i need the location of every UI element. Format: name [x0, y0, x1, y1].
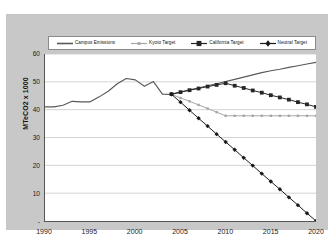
series-california-target: [170, 81, 316, 108]
data-point-marker: [233, 84, 237, 88]
data-point-marker: [206, 107, 208, 109]
data-point-marker: [288, 115, 290, 117]
y-axis-tick-label: 10: [18, 191, 40, 198]
legend-item-neutral-target[interactable]: Neutral Target: [260, 39, 307, 48]
y-axis-tick-label: 30: [18, 135, 40, 142]
legend-item-california-target[interactable]: California Target: [191, 39, 243, 48]
legend-item-campus-emissions[interactable]: Campus Emissions: [57, 39, 115, 48]
data-point-marker: [234, 115, 236, 117]
data-point-marker: [287, 98, 291, 102]
legend-swatch-neutral-target-icon: [260, 39, 276, 48]
data-point-marker: [197, 87, 201, 91]
legend-swatch-california-target-icon: [191, 39, 207, 48]
data-point-marker: [296, 100, 300, 104]
y-axis-title: MTeCO2 x 1000: [22, 44, 29, 164]
data-point-marker: [179, 97, 181, 99]
data-point-marker: [305, 102, 309, 106]
data-point-marker: [269, 93, 273, 97]
y-axis-tick-label: 20: [18, 163, 40, 170]
data-point-marker: [179, 90, 183, 94]
legend-item-kyoto-target[interactable]: Kyoto Target: [131, 39, 175, 48]
y-axis-tick-label: 40: [18, 107, 40, 114]
gridlines: [45, 54, 316, 193]
data-point-marker: [297, 115, 299, 117]
legend-label-california-target: California Target: [209, 41, 243, 46]
x-axis-tick-label: 2020: [296, 228, 334, 235]
x-axis-tick-label: 2010: [205, 228, 245, 235]
data-point-marker: [188, 100, 190, 102]
data-point-marker: [215, 111, 217, 113]
data-series-layer: [45, 62, 316, 221]
legend-swatch-campus-emissions-icon: [57, 39, 73, 48]
plot-svg: [45, 54, 316, 221]
data-point-marker: [206, 85, 210, 89]
data-point-marker: [270, 115, 272, 117]
legend-label-campus-emissions: Campus Emissions: [75, 41, 115, 46]
data-point-marker: [315, 115, 316, 117]
data-point-marker: [314, 105, 316, 109]
x-axis-tick-label: 2015: [251, 228, 291, 235]
x-axis-tick-label: 1990: [24, 228, 64, 235]
y-axis-tick-label: 50: [18, 79, 40, 86]
x-axis-tick-label: 2005: [160, 228, 200, 235]
data-point-marker: [261, 115, 263, 117]
data-point-marker: [260, 91, 264, 95]
data-point-marker: [188, 88, 192, 92]
data-point-marker: [279, 115, 281, 117]
legend-swatch-kyoto-target-icon: [131, 39, 147, 48]
legend-label-neutral-target: Neutral Target: [278, 41, 307, 46]
plot-area: [44, 54, 316, 222]
x-axis-tick-label: 2000: [115, 228, 155, 235]
chart-legend: Campus Emissions Kyoto Target California…: [48, 36, 316, 50]
data-point-marker: [306, 115, 308, 117]
data-point-marker: [252, 115, 254, 117]
data-point-marker: [224, 115, 226, 117]
data-point-marker: [224, 81, 228, 85]
x-axis-tick-labels: 1990199520002005201020152020: [44, 226, 316, 238]
legend-label-kyoto-target: Kyoto Target: [149, 41, 175, 46]
series-kyoto-target: [170, 93, 316, 117]
data-point-marker: [251, 89, 255, 93]
y-axis-tick-label: -: [18, 219, 40, 226]
data-point-marker: [242, 86, 246, 90]
data-point-marker: [243, 115, 245, 117]
y-axis-tick-label: 60: [18, 51, 40, 58]
series-line: [171, 94, 316, 115]
data-point-marker: [215, 83, 219, 87]
data-point-marker: [278, 96, 282, 100]
x-axis-tick-label: 1995: [69, 228, 109, 235]
data-point-marker: [197, 104, 199, 106]
series-neutral-target: [169, 92, 316, 221]
chart-canvas: Campus Emissions Kyoto Target California…: [6, 14, 328, 230]
